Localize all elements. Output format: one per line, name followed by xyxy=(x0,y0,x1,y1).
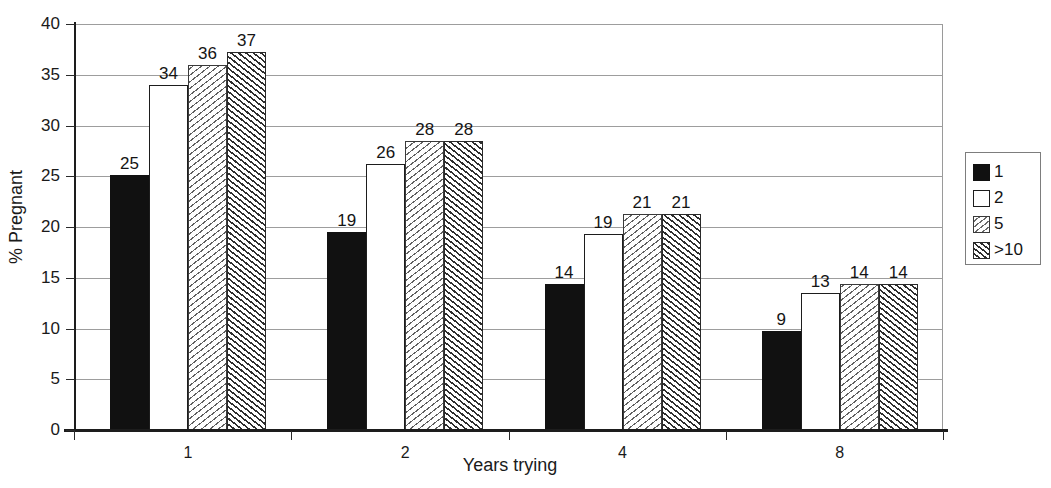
bar: 21 xyxy=(662,214,701,430)
legend-item-label: 5 xyxy=(994,215,1003,233)
x-axis-tick xyxy=(943,431,944,440)
bar-value-label: 28 xyxy=(415,121,434,139)
y-axis-tick-label: 10 xyxy=(14,320,60,337)
y-axis-tick-label: 40 xyxy=(14,15,60,32)
legend-item-label: 1 xyxy=(994,163,1003,181)
y-axis-tick xyxy=(66,227,75,228)
x-axis-tick-label: 1 xyxy=(158,444,218,462)
x-axis-tick xyxy=(726,431,727,440)
bar-value-label: 28 xyxy=(454,121,473,139)
legend-item-label: >10 xyxy=(994,241,1023,259)
bar: 28 xyxy=(405,141,444,430)
y-axis-tick xyxy=(66,75,75,76)
bar: 37 xyxy=(227,52,266,430)
bar-value-label: 26 xyxy=(376,144,395,162)
legend: 125>10 xyxy=(965,152,1041,265)
bar: 14 xyxy=(879,284,918,430)
y-axis-tick xyxy=(66,379,75,380)
bar: 14 xyxy=(840,284,879,430)
x-axis-tick xyxy=(74,431,75,440)
bar-value-label: 37 xyxy=(237,32,256,50)
legend-swatch-icon xyxy=(973,216,990,233)
x-axis-line xyxy=(64,429,948,432)
y-axis-tick-label: 5 xyxy=(14,370,60,387)
y-axis-tick xyxy=(66,24,75,25)
x-axis-tick xyxy=(291,431,292,440)
bar: 25 xyxy=(110,175,149,430)
legend-swatch-icon xyxy=(973,190,990,207)
x-axis-tick xyxy=(509,431,510,440)
x-axis-title: Years trying xyxy=(410,455,610,475)
x-axis-tick-label: 8 xyxy=(810,444,870,462)
y-axis-tick xyxy=(66,176,75,177)
y-axis-tick xyxy=(66,126,75,127)
bar: 19 xyxy=(327,232,366,430)
bar: 36 xyxy=(188,65,227,430)
bar: 28 xyxy=(444,141,483,430)
y-axis-title: % Pregnant xyxy=(6,117,26,317)
bar: 19 xyxy=(584,234,623,430)
bar: 26 xyxy=(366,164,405,430)
bar-value-label: 14 xyxy=(555,264,574,282)
y-axis-tick-label: 35 xyxy=(14,66,60,83)
y-axis-tick xyxy=(66,329,75,330)
bar: 34 xyxy=(149,85,188,430)
legend-swatch-icon xyxy=(973,164,990,181)
bar-value-label: 19 xyxy=(594,214,613,232)
bar-value-label: 14 xyxy=(889,264,908,282)
legend-item: >10 xyxy=(973,237,1040,263)
bar-value-label: 14 xyxy=(850,264,869,282)
bar-value-label: 36 xyxy=(198,45,217,63)
bar-value-label: 13 xyxy=(811,273,830,291)
bar-value-label: 19 xyxy=(337,212,356,230)
y-axis-tick xyxy=(66,278,75,279)
y-axis-tick-label: 0 xyxy=(14,421,60,438)
bar: 14 xyxy=(545,284,584,430)
bar-value-label: 9 xyxy=(777,311,786,329)
bar: 13 xyxy=(801,293,840,430)
gridline xyxy=(74,24,943,25)
legend-item: 5 xyxy=(973,211,1040,237)
bar-value-label: 25 xyxy=(120,155,139,173)
bar: 9 xyxy=(762,331,801,430)
bar: 21 xyxy=(623,214,662,430)
legend-swatch-icon xyxy=(973,242,990,259)
bar-value-label: 21 xyxy=(633,194,652,212)
bar-value-label: 21 xyxy=(672,194,691,212)
legend-item: 1 xyxy=(973,159,1040,185)
legend-item-label: 2 xyxy=(994,189,1003,207)
bar-value-label: 34 xyxy=(159,65,178,83)
plot-area: 2534363719262828141921219131414 xyxy=(74,24,943,430)
legend-item: 2 xyxy=(973,185,1040,211)
bar-chart-figure: 2534363719262828141921219131414 05101520… xyxy=(0,0,1051,488)
